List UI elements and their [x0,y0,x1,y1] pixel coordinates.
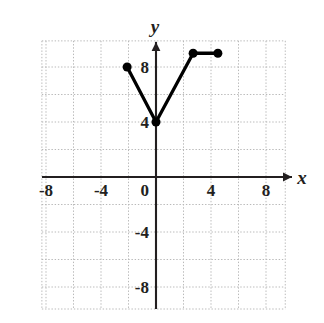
origin-tick-label: 0 [141,181,150,200]
data-point-0 [123,63,132,72]
x-axis-label: x [296,167,307,188]
x-tick-label: -4 [94,181,109,200]
y-axis-label: y [149,16,160,37]
coordinate-plane-figure: -8-44884-4-80 y x [0,0,324,323]
y-tick-label: 8 [141,58,150,77]
x-tick-label: 4 [207,181,216,200]
data-point-3 [213,49,222,58]
y-tick-label: 4 [141,113,150,132]
y-tick-label: -8 [135,278,149,297]
data-point-2 [189,49,198,58]
x-tick-label: 8 [262,181,271,200]
y-tick-label: -4 [135,223,150,242]
graph-canvas: -8-44884-4-80 y x [0,0,324,323]
data-point-1 [152,118,161,127]
figure-background [0,0,324,323]
x-tick-label: -8 [39,181,53,200]
